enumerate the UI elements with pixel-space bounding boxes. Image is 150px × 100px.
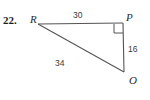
problem-number: 22.: [3, 14, 17, 26]
geometry-problem-figure: 22. R P O 30 16 34: [0, 0, 150, 100]
vertex-label-o: O: [129, 74, 137, 86]
side-length-rp: 30: [73, 10, 82, 20]
vertex-label-r: R: [30, 13, 37, 25]
vertex-label-p: P: [126, 11, 133, 23]
side-rp-line: [38, 23, 123, 24]
side-length-ro: 34: [55, 58, 64, 68]
side-po-line: [123, 23, 124, 72]
side-ro-line: [38, 24, 124, 72]
right-angle-marker-icon: [114, 24, 123, 33]
side-length-po: 16: [128, 44, 137, 54]
